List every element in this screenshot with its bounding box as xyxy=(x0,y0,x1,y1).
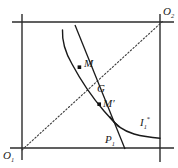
indifference-curve xyxy=(110,117,160,138)
label-origin-2: O2 xyxy=(163,6,174,20)
label-point-P1-base: P xyxy=(105,133,112,145)
diagram-canvas xyxy=(0,0,178,168)
label-point-G-base: G xyxy=(97,82,105,94)
label-point-P1-sub: 1 xyxy=(112,140,115,147)
label-curve-I1-sup: * xyxy=(147,115,150,122)
label-origin-1: O1 xyxy=(3,150,14,164)
label-point-M-prime: M′ xyxy=(103,98,115,109)
label-point-M: M xyxy=(84,58,93,69)
label-origin-2-sub: 2 xyxy=(171,12,174,19)
label-point-M-base: M xyxy=(84,57,93,69)
label-point-G: G xyxy=(97,83,105,94)
label-curve-I1-sub: 1 xyxy=(144,123,147,130)
point-marker-M-prime xyxy=(97,102,101,106)
label-point-M-prime-base: M′ xyxy=(103,97,115,109)
edgeworth-box-figure: O1 O2 M G M′ P1 I1* xyxy=(0,0,178,168)
label-origin-1-base: O xyxy=(3,149,11,161)
label-origin-2-base: O xyxy=(163,5,171,17)
label-origin-1-sub: 1 xyxy=(11,156,14,163)
diagonal-dotted-line xyxy=(22,21,163,150)
label-point-P1: P1 xyxy=(105,134,115,148)
point-marker-M xyxy=(78,65,82,69)
label-curve-I1-star: I1* xyxy=(140,116,150,130)
